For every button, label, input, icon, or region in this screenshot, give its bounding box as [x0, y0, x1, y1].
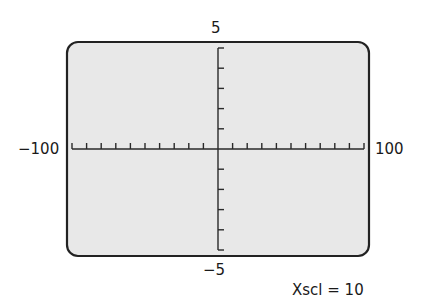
ymin-label: −5 — [203, 263, 225, 278]
xmax-label: 100 — [375, 142, 404, 157]
graphing-window-figure: 5 −5 −100 100 Xscl = 10 — [0, 0, 421, 308]
xscl-label: Xscl = 10 — [292, 283, 364, 298]
ymax-label: 5 — [211, 21, 221, 36]
xmin-label: −100 — [18, 142, 59, 157]
